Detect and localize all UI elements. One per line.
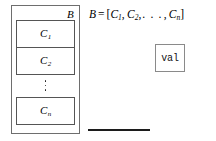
equation-separator-1: , [122,8,125,20]
chunk-label-cn: Cn [40,104,51,118]
equation-close-bracket: ] [180,8,184,20]
chunk-box-c1: C1 [16,20,75,48]
diagram-canvas: B C1 C2 Cn B=[C1, C2,. . ., Cn] val [0,0,216,141]
chunk-label-c2: C2 [40,54,51,68]
chunk-subscript-c2: 2 [48,60,52,68]
block-label: B [67,8,74,20]
equation-term-base-1: C [110,8,118,20]
horizontal-rule [88,129,150,131]
value-box-label: val [161,53,178,64]
equation-term-sub-2: 2 [135,13,139,22]
equation-lhs: B [89,8,96,20]
equation-last-term-sub: n [177,13,181,22]
equation: B=[C1, C2,. . ., Cn] [89,7,184,23]
chunk-base-c1: C [40,27,47,39]
chunk-box-c2: C2 [16,47,75,75]
ellipsis-dot [45,85,47,87]
equation-term-base-2: C [127,8,135,20]
equation-ellipsis: . . . [141,8,163,20]
equation-term-sub-1: 1 [118,13,122,22]
chunk-base-c2: C [40,54,47,66]
equation-operator: = [96,8,107,20]
vertical-ellipsis [16,76,75,95]
chunk-subscript-c1: 1 [48,33,52,41]
chunk-subscript-cn: n [48,110,52,118]
equation-separator-3: , [164,8,167,20]
chunk-label-c1: C1 [40,27,51,41]
chunk-base-cn: C [40,104,47,116]
ellipsis-dot [45,80,47,82]
ellipsis-dot [45,89,47,91]
chunk-box-cn: Cn [16,97,75,125]
value-box: val [155,44,185,72]
equation-last-term-base: C [169,8,177,20]
